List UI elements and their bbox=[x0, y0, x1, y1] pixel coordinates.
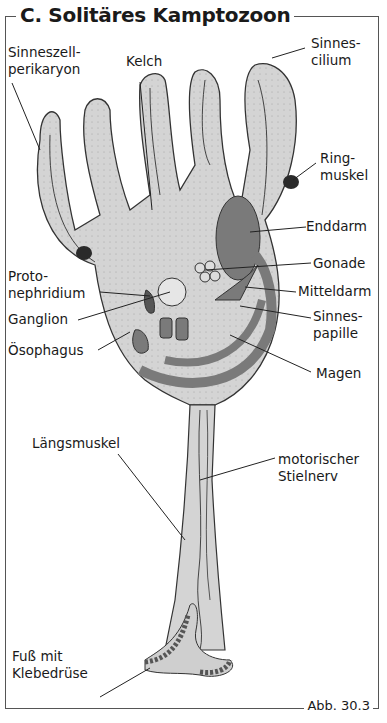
ganglion-organ bbox=[158, 278, 186, 306]
label-ganglion: Ganglion bbox=[8, 311, 68, 328]
label-magen: Magen bbox=[316, 365, 361, 382]
body-segment-1 bbox=[160, 318, 172, 338]
label-sinnespapille: Sinnes- papille bbox=[313, 308, 363, 342]
label-ringmuskel: Ring- muskel bbox=[320, 150, 368, 184]
label-gonade: Gonade bbox=[313, 255, 365, 272]
dark-spot-left bbox=[76, 246, 92, 260]
label-laengsmuskel: Längsmuskel bbox=[32, 435, 120, 452]
label-mitteldarm: Mitteldarm bbox=[298, 283, 371, 300]
label-oesophagus: Ösophagus bbox=[8, 342, 83, 359]
kamptozoon-diagram bbox=[0, 0, 387, 723]
label-stielnerv: motorischer Stielnerv bbox=[278, 451, 359, 485]
label-protonephridium: Proto- nephridium bbox=[8, 268, 85, 302]
label-enddarm: Enddarm bbox=[306, 218, 367, 235]
body-segment-2 bbox=[176, 318, 188, 340]
label-sinneszellperikaryon: Sinneszell- perikaryon bbox=[8, 44, 81, 78]
label-sinnescilium: Sinnes- cilium bbox=[311, 35, 361, 69]
label-fuss-klebedruese: Fuß mit Klebedrüse bbox=[12, 648, 88, 682]
label-kelch: Kelch bbox=[126, 53, 162, 70]
figure-number: Abb. 30.3 bbox=[304, 697, 373, 715]
